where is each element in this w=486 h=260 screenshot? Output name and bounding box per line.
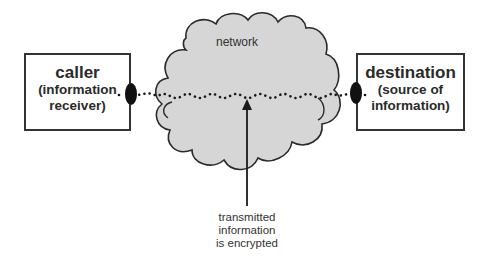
network-label: network xyxy=(216,35,258,49)
caller-endpoint-icon xyxy=(125,83,137,105)
caption-line2: information xyxy=(187,224,307,237)
caption-line3: is encrypted xyxy=(187,237,307,250)
destination-endpoint-dot-right xyxy=(364,94,367,97)
encryption-caption: transmitted information is encrypted xyxy=(187,211,307,250)
caller-endpoint-dot-left xyxy=(118,94,121,97)
destination-endpoint-icon xyxy=(350,82,362,104)
caption-line1: transmitted xyxy=(187,211,307,224)
